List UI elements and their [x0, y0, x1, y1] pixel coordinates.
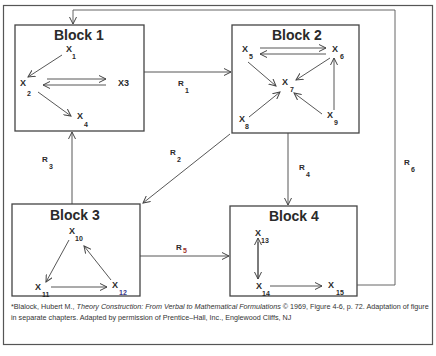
relation-r3-label: R3 [42, 155, 53, 170]
arrow-x12-x10 [84, 246, 111, 280]
svg-text:1: 1 [72, 53, 76, 60]
var-x7: X7 [282, 77, 294, 93]
svg-text:X: X [332, 44, 338, 54]
arrow-x1-x2 [28, 55, 62, 77]
svg-text:X: X [35, 282, 41, 292]
svg-text:11: 11 [42, 291, 50, 298]
svg-text:R: R [176, 243, 182, 252]
block-1-title: Block 1 [54, 27, 104, 43]
relation-r6-arrow [73, 10, 395, 285]
var-x9: X9 [327, 110, 338, 126]
var-x1: X1 [66, 44, 76, 60]
svg-text:R: R [170, 148, 176, 157]
svg-text:X3: X3 [118, 78, 129, 88]
svg-text:X: X [242, 44, 248, 54]
svg-text:X: X [77, 111, 83, 121]
svg-text:5: 5 [183, 247, 187, 254]
var-x2: X2 [20, 78, 31, 97]
svg-text:X: X [20, 78, 26, 88]
arrow-x5-x7 [248, 62, 276, 86]
svg-text:12: 12 [119, 289, 127, 296]
var-x12: X12 [112, 280, 127, 296]
svg-text:1: 1 [185, 87, 189, 94]
svg-text:X: X [282, 77, 288, 87]
block-4-title: Block 4 [269, 208, 319, 224]
var-x4: X4 [77, 111, 88, 128]
svg-text:X: X [328, 280, 334, 290]
svg-text:X: X [327, 110, 333, 120]
svg-text:3: 3 [49, 163, 53, 170]
svg-text:10: 10 [75, 235, 83, 242]
outer-frame [4, 6, 433, 345]
svg-text:5: 5 [249, 53, 253, 60]
svg-text:R: R [404, 158, 410, 167]
svg-text:2: 2 [27, 90, 31, 97]
var-x5: X5 [242, 44, 253, 60]
svg-text:6: 6 [340, 53, 344, 60]
svg-text:R: R [42, 155, 48, 164]
var-x13: X13 [255, 228, 269, 244]
caption-prefix: *Blalock, Hubert M., [11, 302, 77, 311]
svg-text:13: 13 [261, 237, 269, 244]
var-x15: X15 [328, 280, 344, 296]
svg-text:R: R [299, 163, 305, 172]
svg-text:4: 4 [306, 171, 310, 178]
svg-text:R: R [178, 79, 184, 88]
svg-text:4: 4 [84, 121, 88, 128]
svg-text:6: 6 [411, 166, 415, 173]
relation-r5-label: R5 [176, 243, 187, 254]
svg-text:8: 8 [245, 123, 249, 130]
svg-text:X: X [112, 280, 118, 290]
var-x14: X14 [256, 281, 270, 297]
relation-r2-arrow [143, 134, 230, 203]
svg-text:14: 14 [262, 290, 270, 297]
var-x10: X10 [69, 226, 83, 242]
arrow-x2-x4 [38, 92, 71, 116]
arrow-x9-x7 [294, 93, 322, 114]
relation-r2-label: R2 [170, 148, 181, 163]
block-3-title: Block 3 [50, 207, 100, 223]
arrow-x10-x11 [46, 240, 69, 282]
relation-r4-label: R4 [299, 163, 310, 178]
source-caption: *Blalock, Hubert M., Theory Construction… [11, 302, 431, 323]
svg-text:15: 15 [336, 289, 344, 296]
svg-text:9: 9 [334, 119, 338, 126]
var-x3: X3 [118, 78, 129, 88]
var-x6: X6 [332, 44, 344, 60]
arrow-x6-x7 [296, 58, 330, 80]
var-x8: X8 [239, 114, 249, 130]
relation-r1-label: R1 [178, 79, 189, 94]
svg-text:7: 7 [290, 86, 294, 93]
caption-book-title: Theory Construction: From Verbal to Math… [77, 302, 281, 311]
svg-text:2: 2 [177, 156, 181, 163]
relation-r6-label: R6 [404, 158, 415, 173]
block-2-title: Block 2 [272, 27, 322, 43]
arrow-x8-x7 [249, 92, 280, 117]
